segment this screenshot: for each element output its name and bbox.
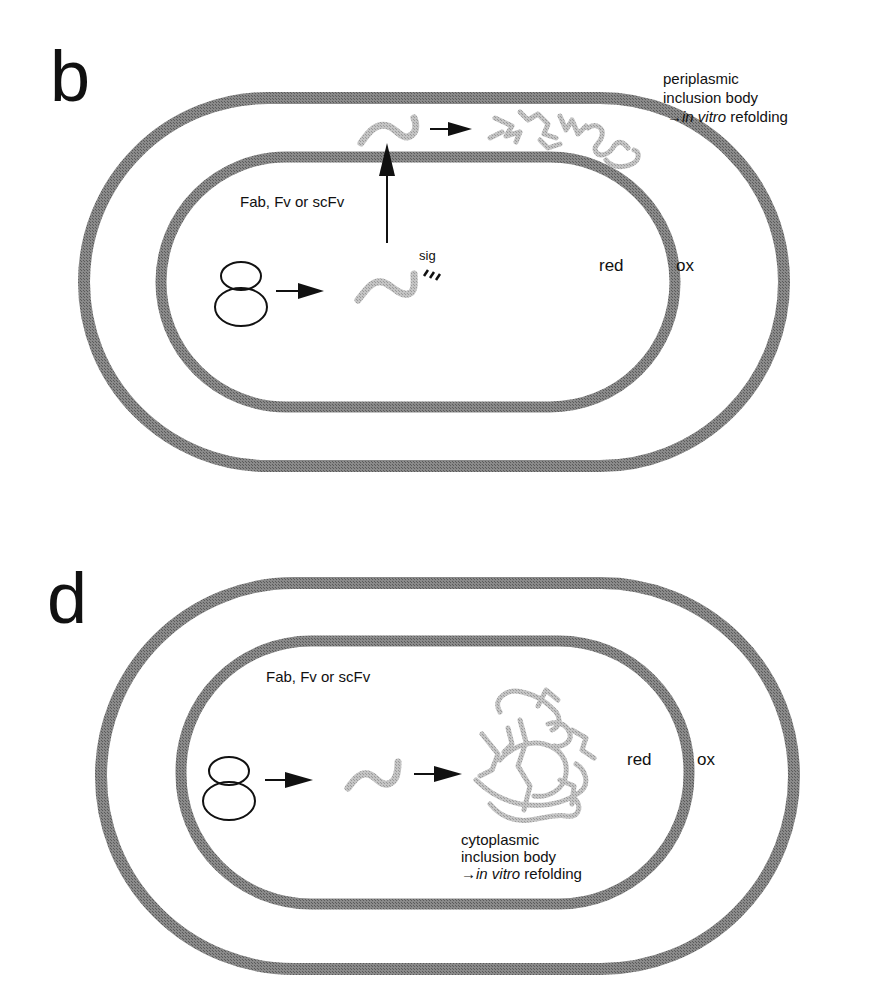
plasmid-icon xyxy=(215,262,267,326)
arrow-right-icon xyxy=(265,772,313,788)
protein-label-d: Fab, Fv or scFv xyxy=(266,667,370,686)
arrow-right-icon xyxy=(430,122,472,136)
arrow-right-icon xyxy=(276,283,324,299)
periplasmic-protein-icon xyxy=(361,118,416,143)
right-arrow-glyph: → xyxy=(667,108,682,125)
protein-chain-icon xyxy=(348,762,398,788)
protein-label-b: Fab, Fv or scFv xyxy=(240,192,344,211)
arrow-right-icon xyxy=(414,766,462,782)
result-line-3: →in vitro refolding xyxy=(663,107,788,126)
cytoplasmic-result-label: cytoplasmic inclusion body →in vitro ref… xyxy=(461,831,582,882)
result-line-2: inclusion body xyxy=(461,848,582,865)
panel-letter-d: d xyxy=(47,562,87,634)
compartment-red-d: red xyxy=(627,750,652,769)
panel-d xyxy=(101,583,794,969)
inner-membrane-b xyxy=(161,157,675,407)
cytoplasmic-inclusion-body-icon xyxy=(476,690,594,820)
right-arrow-glyph: → xyxy=(461,865,476,882)
result-line-1: periplasmic xyxy=(663,69,788,88)
refolding-text: refolding xyxy=(520,865,582,882)
protein-chain-icon xyxy=(358,274,414,300)
in-vitro-text: in vitro xyxy=(682,108,726,125)
plasmid-icon xyxy=(203,757,255,820)
in-vitro-text: in vitro xyxy=(476,865,520,882)
signal-label: sig xyxy=(419,246,436,265)
compartment-ox-d: ox xyxy=(697,750,715,769)
periplasmic-result-label: periplasmic inclusion body →in vitro ref… xyxy=(663,69,788,126)
signal-peptide-icon xyxy=(424,270,440,280)
panel-letter-b: b xyxy=(50,40,90,112)
diagram-canvas xyxy=(0,0,873,1004)
compartment-ox-b: ox xyxy=(676,256,694,275)
result-line-1: cytoplasmic xyxy=(461,831,582,848)
result-line-2: inclusion body xyxy=(663,88,788,107)
refolding-text: refolding xyxy=(726,108,788,125)
compartment-red-b: red xyxy=(599,256,624,275)
panel-b xyxy=(84,98,784,466)
result-line-3: →in vitro refolding xyxy=(461,865,582,882)
